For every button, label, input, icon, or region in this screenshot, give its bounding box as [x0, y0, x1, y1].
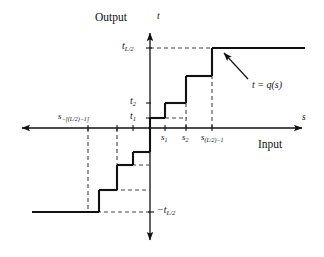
y-tick-sub-t1: 1: [133, 115, 136, 122]
x-tick-label-s-neg-L2-minus-1: s−[(L/2)−1]: [58, 112, 89, 123]
x-tick-sub-s-neg: −[(L/2)−1]: [62, 116, 89, 122]
staircase-curve: [32, 48, 305, 212]
annotation-arrow-line: [224, 53, 248, 79]
y-tick-sub-t2: 2: [133, 100, 136, 107]
y-tick-sub-t-half-L: L/2: [125, 45, 134, 52]
output-axis-title: Output: [95, 12, 127, 24]
input-axis-title: Input: [258, 139, 282, 151]
x-tick-label-s-L2-minus-1: s(L/2)−1: [201, 133, 223, 144]
quantizer-staircase-figure: Output t Input s tL/2 t2 t1 −tL/2 s−[(L/…: [0, 0, 324, 257]
x-tick-sub-s2: 2: [186, 137, 189, 143]
x-tick-sub-s-L2: (L/2)−1: [205, 137, 224, 143]
x-tick-sub-s1: 1: [165, 137, 168, 143]
annotation-leader: [224, 53, 248, 79]
plot-canvas: [0, 0, 324, 257]
dashed-guides: [34, 48, 212, 212]
curve-equation-annotation: t = q(s): [252, 80, 282, 90]
y-tick-label-t1: t1: [130, 111, 136, 122]
y-tick-prefix-neg: −: [157, 204, 164, 215]
x-tick-label-s2: s2: [182, 133, 188, 144]
s-axis-symbol: s: [302, 113, 306, 123]
x-tick-label-s1: s1: [161, 133, 167, 144]
y-tick-label-neg-t-half-L: −tL/2: [157, 205, 175, 216]
y-tick-label-t2: t2: [130, 96, 136, 107]
t-axis-symbol: t: [157, 12, 160, 22]
y-tick-sub-neg-t-half-L: L/2: [167, 209, 176, 216]
y-tick-label-t-half-L: tL/2: [122, 41, 134, 52]
